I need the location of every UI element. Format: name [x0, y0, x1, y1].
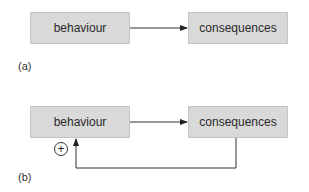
feedback-arrow-consequences-to-behaviour [76, 138, 236, 168]
connector-lines [0, 0, 309, 192]
